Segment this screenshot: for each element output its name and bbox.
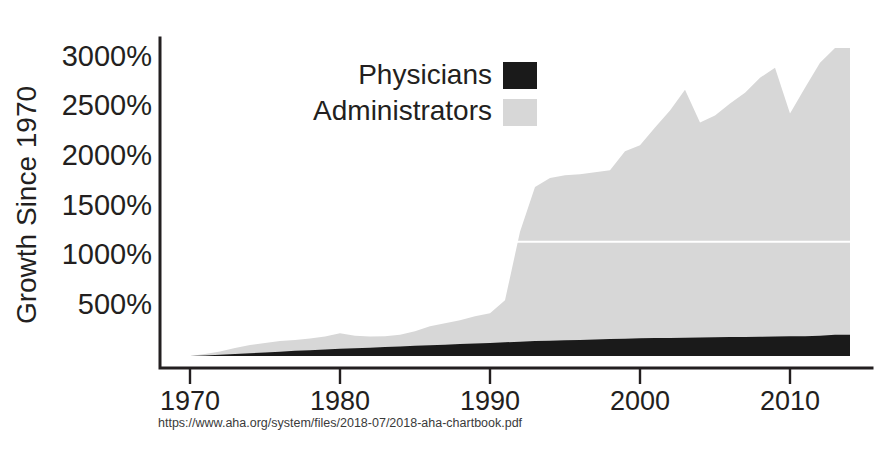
- y-tick-label-3000: 3000%: [62, 40, 152, 72]
- y-tick-label-2500: 2500%: [62, 89, 152, 121]
- y-tick-label-1000: 1000%: [62, 238, 152, 270]
- x-tick-label-1970: 1970: [160, 386, 220, 416]
- legend-swatch-administrators: [503, 99, 537, 126]
- y-tick-label-500: 500%: [78, 288, 152, 320]
- area-chart-svg: 500%1000%1500%2000%2500%3000% 1970198019…: [0, 0, 876, 456]
- plot-area: [190, 48, 850, 356]
- y-axis-title: Growth Since 1970: [11, 86, 42, 324]
- legend: Physicians Administrators: [313, 59, 537, 126]
- legend-label-administrators: Administrators: [313, 95, 492, 126]
- source-note: https://www.aha.org/system/files/2018-07…: [158, 416, 523, 430]
- x-tick-label-2010: 2010: [760, 386, 820, 416]
- growth-since-1970-figure: 500%1000%1500%2000%2500%3000% 1970198019…: [0, 0, 876, 456]
- y-tick-labels: 500%1000%1500%2000%2500%3000%: [62, 40, 152, 320]
- y-tick-label-2000: 2000%: [62, 139, 152, 171]
- legend-swatch-physicians: [503, 62, 537, 89]
- legend-label-physicians: Physicians: [358, 59, 492, 90]
- x-tick-marks: [190, 368, 790, 384]
- y-tick-label-1500: 1500%: [62, 189, 152, 221]
- series-area-administrators: [190, 48, 850, 356]
- x-tick-label-2000: 2000: [610, 386, 670, 416]
- x-tick-label-1980: 1980: [310, 386, 370, 416]
- x-tick-labels: 19701980199020002010: [160, 386, 820, 416]
- x-tick-label-1990: 1990: [460, 386, 520, 416]
